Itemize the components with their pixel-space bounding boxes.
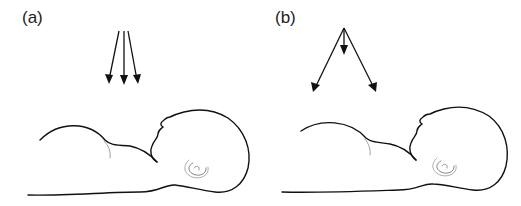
arrow-icon xyxy=(316,28,344,86)
panel-b-arrows xyxy=(316,28,373,86)
arrow-icon xyxy=(344,28,373,86)
arrow-icon xyxy=(128,31,137,80)
panel-a-arrows xyxy=(109,31,137,80)
arrow-icon xyxy=(109,31,119,80)
panel-a-infant xyxy=(28,110,249,195)
diagram-canvas xyxy=(0,0,521,206)
panel-b-infant xyxy=(282,107,507,192)
